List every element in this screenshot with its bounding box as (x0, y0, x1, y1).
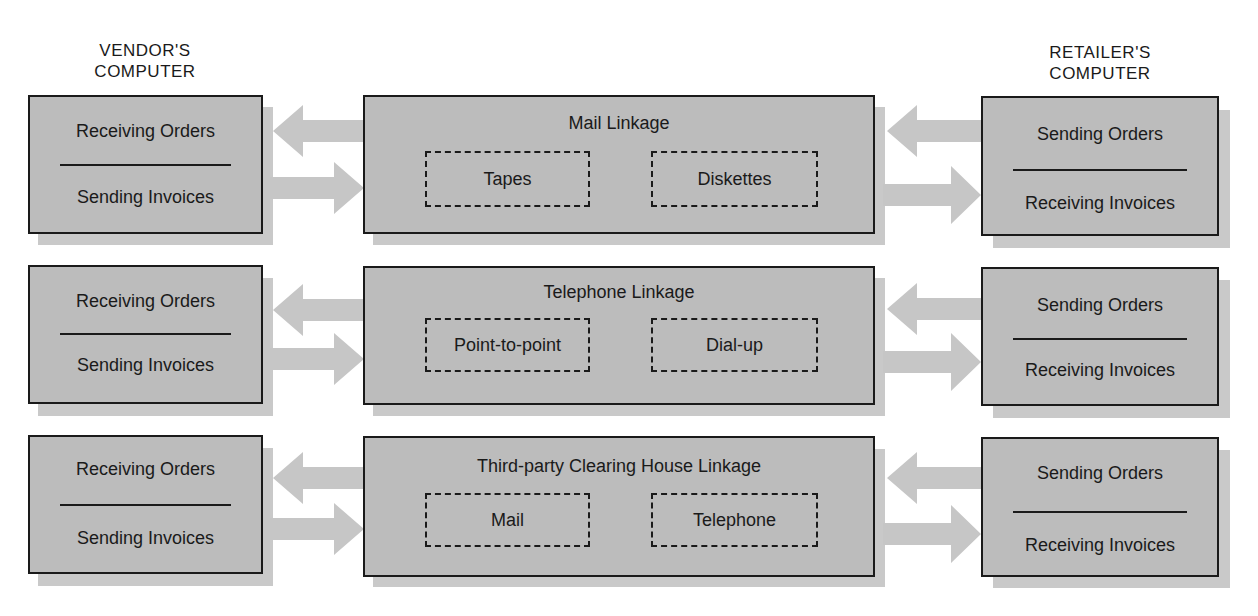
arrow-left-icon (887, 283, 983, 335)
retailer-receiving-invoices: Receiving Invoices (983, 535, 1217, 556)
linkage-option: Dial-up (651, 318, 818, 372)
arrow-right-icon (270, 162, 364, 214)
vendor-box: Receiving Orders Sending Invoices (28, 435, 263, 574)
vendor-sending-invoices: Sending Invoices (30, 355, 261, 376)
retailer-box: Sending Orders Receiving Invoices (981, 96, 1219, 236)
vendor-sending-invoices: Sending Invoices (30, 187, 261, 208)
retailer-receiving-invoices: Receiving Invoices (983, 193, 1217, 214)
vendor-title-line1: VENDOR'S (40, 40, 250, 61)
vendor-receiving-orders: Receiving Orders (30, 459, 261, 480)
retailer-title-line1: RETAILER'S (990, 42, 1210, 63)
linkage-box: Mail Linkage Tapes Diskettes (363, 95, 875, 234)
linkage-box: Telephone Linkage Point-to-point Dial-up (363, 266, 875, 405)
linkage-option: Diskettes (651, 151, 818, 207)
vendor-divider (60, 164, 231, 166)
retailer-sending-orders: Sending Orders (983, 463, 1217, 484)
arrow-right-icon (270, 503, 364, 555)
vendor-receiving-orders: Receiving Orders (30, 291, 261, 312)
linkage-title: Mail Linkage (365, 113, 873, 134)
arrow-left-icon (273, 105, 365, 157)
vendor-divider (60, 333, 231, 335)
vendor-sending-invoices: Sending Invoices (30, 528, 261, 549)
vendor-box: Receiving Orders Sending Invoices (28, 95, 263, 234)
arrow-left-icon (887, 452, 983, 504)
arrow-left-icon (887, 105, 983, 157)
retailer-divider (1013, 169, 1187, 171)
arrow-right-icon (883, 505, 981, 563)
linkage-title: Telephone Linkage (365, 282, 873, 303)
retailer-divider (1013, 338, 1187, 340)
retailer-title-line2: COMPUTER (990, 63, 1210, 84)
retailer-sending-orders: Sending Orders (983, 124, 1217, 145)
arrow-left-icon (273, 452, 365, 504)
linkage-box: Third-party Clearing House Linkage Mail … (363, 436, 875, 577)
linkage-option: Mail (425, 493, 590, 547)
retailer-column-title: RETAILER'S COMPUTER (990, 42, 1210, 84)
arrow-left-icon (273, 284, 365, 336)
linkage-option: Point-to-point (425, 318, 590, 372)
arrow-right-icon (270, 333, 364, 385)
retailer-box: Sending Orders Receiving Invoices (981, 267, 1219, 406)
linkage-option: Tapes (425, 151, 590, 207)
vendor-receiving-orders: Receiving Orders (30, 121, 261, 142)
retailer-sending-orders: Sending Orders (983, 295, 1217, 316)
vendor-divider (60, 504, 231, 506)
retailer-divider (1013, 511, 1187, 513)
arrow-right-icon (883, 333, 981, 391)
vendor-column-title: VENDOR'S COMPUTER (40, 40, 250, 82)
retailer-receiving-invoices: Receiving Invoices (983, 360, 1217, 381)
linkage-option: Telephone (651, 493, 818, 547)
linkage-title: Third-party Clearing House Linkage (365, 456, 873, 477)
vendor-box: Receiving Orders Sending Invoices (28, 265, 263, 404)
vendor-title-line2: COMPUTER (40, 61, 250, 82)
arrow-right-icon (883, 166, 981, 224)
retailer-box: Sending Orders Receiving Invoices (981, 437, 1219, 577)
